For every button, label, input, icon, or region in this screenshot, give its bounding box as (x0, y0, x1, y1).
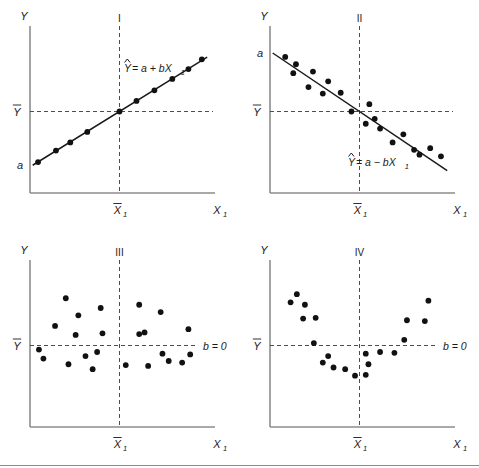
data-point (134, 98, 140, 104)
data-point (199, 56, 205, 62)
data-point (52, 323, 58, 329)
data-point (352, 373, 358, 379)
x-axis-title-subscript: 1 (463, 444, 467, 453)
data-point (166, 358, 172, 364)
xmean-label-subscript: 1 (123, 444, 127, 453)
panel-3-canvas: IIIYX1YX1b = 0 (0, 234, 239, 468)
xmean-label: X1 (113, 204, 127, 220)
x-axis-title: X1 (452, 438, 467, 453)
regression-equation-label: Y = a + bX1 (124, 59, 185, 77)
data-point (325, 78, 331, 84)
data-point (84, 129, 90, 135)
panel-i-positive-linear: IYX1YX1aY = a + bX1 (0, 0, 239, 234)
slope-zero-label: b = 0 (203, 340, 227, 352)
data-points-group (36, 295, 193, 372)
xmean-label-subscript: 1 (363, 210, 367, 219)
intercept-label-a: a (257, 47, 263, 59)
data-point (311, 340, 317, 346)
panel-iii-no-relationship: IIIYX1YX1b = 0 (0, 234, 239, 468)
x-axis-title: X1 (212, 438, 227, 453)
equation-body: = a + bX (132, 62, 173, 74)
equation-y-symbol: Y (348, 156, 356, 168)
data-point (94, 349, 100, 355)
x-axis-title: X1 (452, 204, 467, 219)
y-axis-title: Y (20, 10, 28, 22)
regression-equation-label: Y = a − bX1 (348, 153, 409, 171)
data-point (152, 87, 158, 93)
data-point (320, 360, 326, 366)
data-point (187, 352, 193, 358)
data-point (41, 356, 47, 362)
data-point (90, 366, 96, 372)
data-point (392, 350, 398, 356)
data-point (390, 140, 396, 146)
data-point (73, 332, 79, 338)
intercept-label-a: a (17, 159, 23, 171)
data-point (417, 152, 423, 158)
data-point (35, 159, 41, 165)
slope-zero-label: b = 0 (443, 340, 467, 352)
data-point (438, 153, 444, 159)
data-point (136, 302, 142, 308)
data-point (63, 295, 69, 301)
data-point (282, 54, 288, 60)
figure-bottom-rule (0, 465, 479, 466)
data-point (320, 91, 326, 97)
x-axis-title-subscript: 1 (463, 210, 467, 219)
data-point (179, 360, 185, 366)
ymean-label-text: Y (253, 340, 261, 352)
data-point (331, 365, 337, 371)
data-point (123, 362, 129, 368)
equation-body: = a − bX (356, 156, 397, 168)
data-points-group (282, 54, 444, 159)
data-point (411, 147, 417, 153)
data-point (67, 140, 73, 146)
data-point (142, 330, 148, 336)
data-point (117, 109, 123, 115)
data-point (302, 302, 308, 308)
data-point (145, 363, 151, 369)
x-axis-title-text: X (452, 438, 461, 450)
panel-numeral-label: I (118, 13, 121, 24)
ymean-label-text: Y (253, 106, 261, 118)
data-point (66, 361, 72, 367)
data-point (313, 315, 319, 321)
data-point (338, 90, 344, 96)
xmean-label-text: X (113, 438, 122, 450)
x-axis-title-subscript: 1 (223, 444, 227, 453)
data-point (293, 61, 299, 67)
xmean-label: X1 (353, 438, 367, 454)
data-point (363, 372, 369, 378)
data-point (363, 121, 369, 127)
data-point (160, 351, 166, 357)
panel-iv-curvilinear: IVYX1YX1b = 0 (240, 234, 479, 468)
xmean-label-text: X (353, 438, 362, 450)
data-point (158, 309, 164, 315)
ymean-label: Y (253, 105, 262, 118)
xmean-label-text: X (113, 204, 122, 216)
x-axis-title-subscript: 1 (223, 210, 227, 219)
x-axis-title-text: X (212, 438, 221, 450)
data-point (98, 305, 104, 311)
x-axis-title-text: X (212, 204, 221, 216)
panel-numeral-label: IV (355, 247, 365, 258)
data-point (422, 318, 428, 324)
data-point (288, 299, 294, 305)
data-point (36, 347, 42, 353)
data-point (372, 116, 378, 122)
x-axis-title-text: X (452, 204, 461, 216)
ymean-label-text: Y (13, 106, 21, 118)
xmean-label: X1 (113, 438, 127, 454)
y-axis-title: Y (20, 244, 28, 256)
data-point (363, 351, 369, 357)
data-point (100, 330, 106, 336)
data-point (310, 69, 316, 75)
panel-1-canvas: IYX1YX1aY = a + bX1 (0, 0, 239, 234)
data-point (290, 70, 296, 76)
panel-numeral-label: II (357, 13, 363, 24)
data-point (404, 317, 410, 323)
data-point (306, 84, 312, 90)
ymean-label-text: Y (13, 340, 21, 352)
data-point (75, 312, 81, 318)
data-point (427, 145, 433, 151)
